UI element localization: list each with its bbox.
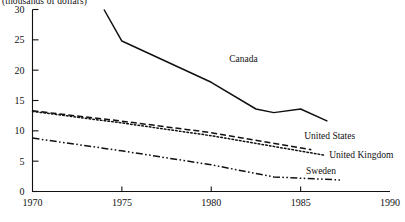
y-axis-tick-label: 20 [15,65,25,76]
line-chart: (thousands of dollars) 05101520253019701… [0,0,405,222]
y-axis-tick-label: 15 [15,95,25,106]
plot-area: 05101520253019701975198019851990CanadaUn… [0,0,405,222]
series-label-sweden: Sweden [306,166,336,176]
x-axis-tick-label: 1975 [112,197,132,208]
x-axis-tick-label: 1990 [380,197,400,208]
y-axis-tick-label: 0 [20,186,25,197]
x-axis-tick-label: 1980 [201,197,221,208]
x-axis-tick-label: 1985 [291,197,311,208]
series-line-canada [104,10,327,122]
series-label-united-kingdom: United Kingdom [329,150,394,160]
series-line-sweden [33,138,340,180]
y-axis-tick-label: 30 [15,4,25,15]
y-axis-tick-label: 25 [15,34,25,45]
series-line-united-kingdom [33,111,324,155]
y-axis-tick-label: 5 [20,156,25,167]
y-axis-tick-label: 10 [15,125,25,136]
x-axis-tick-label: 1970 [23,197,43,208]
series-label-united-states: United States [304,131,355,141]
series-label-canada: Canada [229,54,258,64]
